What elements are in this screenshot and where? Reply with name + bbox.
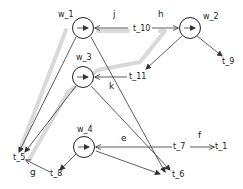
place-t_1[interactable]: t_1 [215, 143, 227, 151]
label-w_2: w_2 [203, 13, 219, 21]
edge-w4-t8 [60, 154, 76, 170]
label-w_1: w_1 [58, 11, 74, 19]
place-t_6[interactable]: t_6 [172, 171, 184, 179]
edge-label-j: j [113, 10, 116, 19]
place-t_7[interactable]: t_7 [173, 143, 185, 151]
label-w_4: w_4 [77, 126, 93, 134]
edge-label-f: f [198, 131, 201, 140]
edge-w2-t9 [197, 36, 222, 56]
edge-w2-t11 [146, 36, 182, 69]
edge-label-e: e [121, 134, 127, 143]
edge-label-k: k [109, 82, 114, 91]
edge-label-h: h [158, 10, 164, 19]
place-t_9[interactable]: t_9 [222, 58, 234, 66]
edges [19, 28, 222, 174]
place-t_10[interactable]: t_10 [133, 25, 150, 33]
place-t_5[interactable]: t_5 [13, 154, 25, 162]
label-w_3: w_3 [76, 54, 92, 62]
place-t_11[interactable]: t_11 [129, 73, 146, 81]
edge-label-g: g [30, 168, 36, 177]
node-w_2[interactable] [180, 18, 201, 39]
diagram-canvas [0, 0, 243, 189]
node-w_1[interactable] [73, 18, 94, 39]
node-w_3[interactable] [73, 67, 94, 88]
edge-w4-t6 [96, 151, 160, 174]
edge-w1-t6 [91, 37, 165, 172]
place-t_8[interactable]: t_8 [50, 170, 62, 178]
edge-w3-t6 [91, 86, 170, 170]
highlight-paths [20, 30, 165, 158]
node-w_4[interactable] [74, 137, 95, 158]
